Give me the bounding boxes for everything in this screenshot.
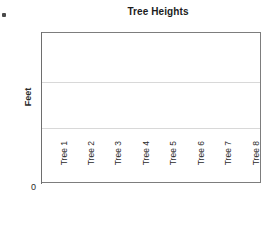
x-tick-label-tree-4: Tree 4 — [141, 141, 151, 185]
y-axis-title: Feet — [23, 79, 33, 115]
x-tick-label-tree-5: Tree 5 — [168, 141, 178, 185]
gridline-y-1 — [42, 128, 260, 129]
y-tick-label-0: 0 — [22, 182, 36, 192]
chart-title: Tree Heights — [0, 6, 274, 17]
x-tick-label-tree-3: Tree 3 — [113, 141, 123, 185]
x-tick-label-tree-8: Tree 8 — [251, 141, 261, 185]
x-tick-label-tree-2: Tree 2 — [86, 141, 96, 185]
gridline-y-2 — [42, 82, 260, 83]
x-tick-label-tree-6: Tree 6 — [196, 141, 206, 185]
x-tick-label-tree-7: Tree 7 — [223, 141, 233, 185]
chart-canvas: Tree Heights Feet 0 Tree 1 Tree 2 Tree 3… — [0, 0, 274, 228]
x-tick-label-tree-1: Tree 1 — [59, 141, 69, 185]
